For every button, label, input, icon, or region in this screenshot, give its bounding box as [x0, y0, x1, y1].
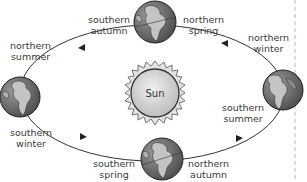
- orbit-arrow-icon: [236, 135, 243, 142]
- orbit-arrow-icon: [221, 40, 228, 47]
- label-southern-spring: southern spring: [93, 158, 135, 180]
- label-northern-summer: northern summer: [10, 40, 51, 62]
- earth-icon-right: [263, 70, 303, 110]
- orbit-arrow-icon: [80, 133, 87, 140]
- sun-label: Sun: [135, 88, 175, 99]
- label-southern-autumn: southern autumn: [88, 14, 130, 36]
- orbit-arrow-icon: [78, 44, 85, 51]
- earth-icon-bottom: [141, 138, 183, 180]
- label-northern-spring: northern spring: [183, 14, 224, 36]
- label-northern-winter: northern winter: [248, 32, 289, 54]
- earth-icon-top: [134, 1, 176, 43]
- label-northern-autumn: northern autumn: [188, 158, 229, 180]
- seasons-diagram: Sun southern autumn northern spring nort…: [0, 0, 307, 182]
- earth-icon-left: [0, 77, 40, 117]
- label-southern-summer: southern summer: [222, 102, 264, 124]
- label-southern-winter: southern winter: [10, 127, 52, 149]
